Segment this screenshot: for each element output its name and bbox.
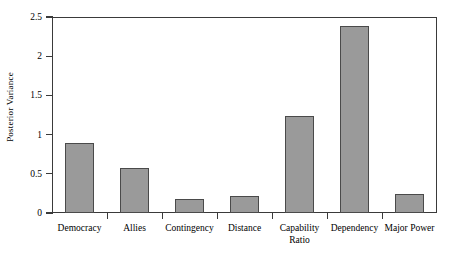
x-axis-tick: [162, 212, 163, 219]
y-axis-tick: 1: [46, 134, 53, 135]
y-axis-tick-label: 2: [37, 51, 46, 61]
x-axis-label: Capability Ratio: [272, 223, 327, 246]
bar: [175, 199, 204, 213]
y-axis-tick: 2.5: [46, 16, 53, 17]
x-axis-label: Allies: [107, 223, 162, 235]
bar: [285, 116, 314, 213]
bar-chart-figure: Posterior Variance 00.511.522.5 Democrac…: [0, 0, 459, 262]
plot-area: [52, 17, 437, 213]
y-axis-title-text: Posterior Variance: [5, 72, 15, 142]
x-axis-tick: [272, 212, 273, 219]
y-axis-tick: 0: [46, 212, 53, 213]
x-axis-tick: [107, 212, 108, 219]
y-axis-tick-label: 0.5: [30, 169, 46, 179]
x-axis-label: Dependency: [327, 223, 382, 235]
y-axis-tick: 0.5: [46, 173, 53, 174]
bar: [120, 168, 149, 213]
x-axis-tick: [217, 212, 218, 219]
y-axis-tick: 1.5: [46, 95, 53, 96]
bar: [230, 196, 259, 213]
bar: [340, 26, 369, 213]
x-axis-label: Democracy: [52, 223, 107, 235]
y-axis-tick: 2: [46, 56, 53, 57]
x-axis-label: Contingency: [162, 223, 217, 235]
y-axis-tick-label: 1.5: [30, 90, 46, 100]
x-axis-tick: [327, 212, 328, 219]
y-axis-tick-label: 1: [37, 130, 46, 140]
x-axis-tick: [382, 212, 383, 219]
bar: [65, 143, 94, 213]
x-axis-label: Major Power: [382, 223, 437, 235]
y-axis-tick-label: 2.5: [30, 12, 46, 22]
y-axis-tick-label: 0: [37, 208, 46, 218]
bar: [395, 194, 424, 213]
x-axis-label: Distance: [217, 223, 272, 235]
y-axis-title: Posterior Variance: [0, 0, 20, 213]
